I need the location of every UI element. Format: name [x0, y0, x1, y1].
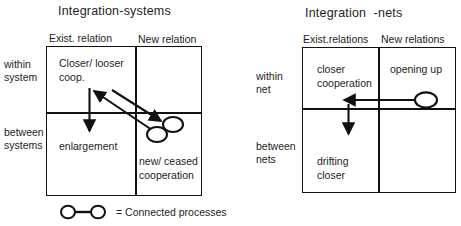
row-label-between-systems: between systems: [4, 126, 44, 152]
matrix-right-horizontal-divider: [303, 108, 455, 110]
column-header-exist-relation-left: Exist. relation: [49, 32, 112, 44]
cell-new-ceased-cooperation: new/ ceased cooperation: [139, 155, 198, 182]
legend: = Connected processes: [57, 203, 227, 221]
cell-closer-cooperation: closer cooperation: [317, 63, 372, 90]
matrix-right-vertical-divider: [378, 48, 380, 192]
legend-label: = Connected processes: [116, 206, 227, 218]
diagram-title-integration-nets: Integration -nets: [305, 6, 402, 20]
column-header-exist-relations-right: Exist.relations: [303, 33, 368, 45]
column-header-new-relations-right: New relations: [381, 33, 445, 45]
diagram-canvas: Integration-systems Exist. relation New …: [0, 0, 461, 226]
connected-processes-symbol-icon: [57, 203, 115, 221]
cell-opening-up: opening up: [390, 63, 442, 77]
row-label-within-system: within system: [4, 58, 37, 84]
cell-closer-looser-coop: Closer/ looser coop.: [59, 57, 124, 84]
column-header-new-relation-left: New relation: [138, 33, 196, 45]
diagram-title-integration-systems: Integration-systems: [58, 4, 171, 18]
row-label-within-net: within net: [256, 70, 283, 96]
cell-drifting-closer: drifting closer: [317, 155, 349, 182]
cell-enlargement: enlargement: [59, 140, 117, 154]
matrix-left-vertical-divider: [135, 47, 137, 195]
row-label-between-nets: between nets: [256, 140, 296, 166]
matrix-left-horizontal-divider: [47, 112, 201, 114]
